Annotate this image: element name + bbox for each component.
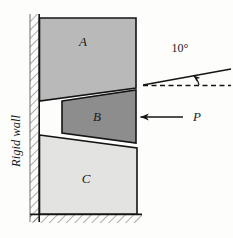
block-a-label: A [78, 34, 87, 49]
block-b-label: B [93, 109, 101, 124]
block-a: A [40, 18, 137, 101]
engineering-diagram: A B C 10° P Rigid wall [0, 0, 233, 238]
block-a-shape [40, 18, 137, 101]
block-c-label: C [82, 171, 91, 186]
block-c: C [40, 135, 138, 214]
block-b: B [62, 90, 136, 143]
force-annotation: P [141, 109, 202, 124]
angle-arc-icon [194, 76, 199, 85]
ground-support [30, 214, 142, 223]
angle-inclined-line [143, 69, 231, 85]
angle-annotation: 10° [143, 41, 231, 86]
rigid-wall-label: Rigid wall [9, 115, 23, 168]
rigid-wall [30, 14, 39, 222]
ground-hatching [30, 214, 142, 223]
rigid-wall-label-group: Rigid wall [9, 115, 23, 168]
angle-value-label: 10° [172, 41, 189, 55]
rigid-wall-hatching [30, 14, 39, 222]
force-label: P [192, 109, 201, 124]
